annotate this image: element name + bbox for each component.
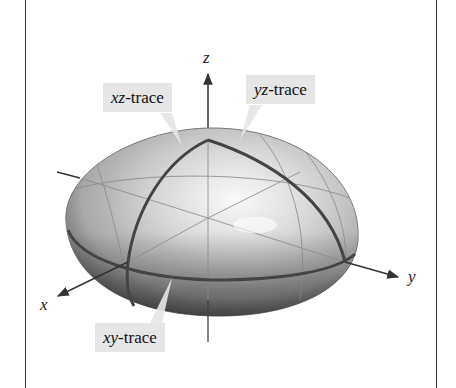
z-axis-label: z [203, 49, 210, 66]
ellipsoid-diagram [0, 0, 456, 388]
ellipsoid-surface [66, 128, 358, 316]
yz-trace-label: yz-trace [246, 75, 315, 104]
neg-y-axis [57, 172, 80, 178]
x-axis-label: x [40, 296, 48, 313]
y-axis-label: y [408, 268, 416, 285]
y-axis [345, 262, 398, 277]
xy-trace-label: xy-trace [95, 323, 165, 352]
xz-trace-label: xz-trace [103, 83, 172, 112]
